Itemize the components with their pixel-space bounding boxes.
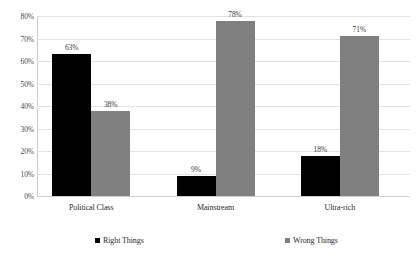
x-axis-category-label: Mainstream xyxy=(197,203,234,212)
bar-value-label: 38% xyxy=(104,100,117,109)
plot-area: 63%38%9%78%18%71% xyxy=(37,16,410,196)
x-axis-category-label: Political Class xyxy=(69,203,114,212)
legend-label: Wrong Things xyxy=(293,236,338,245)
y-axis-tick-label: 30% xyxy=(0,124,34,133)
gridline xyxy=(37,16,410,17)
bar xyxy=(340,36,379,196)
y-axis-tick-labels: 0%10%20%30%40%50%60%70%80% xyxy=(0,16,34,196)
legend-swatch-icon xyxy=(285,238,290,243)
bar xyxy=(216,21,255,197)
y-axis-tick-label: 60% xyxy=(0,57,34,66)
bar-value-label: 71% xyxy=(353,25,366,34)
bar-chart: 0%10%20%30%40%50%60%70%80% 63%38%9%78%18… xyxy=(0,0,420,258)
legend-label: Right Things xyxy=(103,236,144,245)
y-axis-tick-label: 40% xyxy=(0,102,34,111)
legend-entry[interactable]: Wrong Things xyxy=(285,236,338,245)
x-axis-category-label: Ultra-rich xyxy=(325,203,356,212)
y-axis-tick-label: 80% xyxy=(0,12,34,21)
y-axis-tick-label: 0% xyxy=(0,192,34,201)
y-axis-tick-label: 50% xyxy=(0,79,34,88)
bar xyxy=(177,176,216,196)
bar-value-label: 18% xyxy=(314,145,327,154)
bar xyxy=(301,156,340,197)
bar xyxy=(52,54,91,196)
bar-value-label: 63% xyxy=(65,43,78,52)
x-axis-category-labels: Political ClassMainstreamUltra-rich xyxy=(37,203,410,219)
bar-value-label: 78% xyxy=(228,10,241,19)
legend-swatch-icon xyxy=(95,238,100,243)
legend-entry[interactable]: Right Things xyxy=(95,236,144,245)
chart-legend: Right ThingsWrong Things xyxy=(0,236,420,250)
gridline xyxy=(37,196,410,197)
bar xyxy=(91,111,130,197)
y-axis-tick-label: 70% xyxy=(0,34,34,43)
bar-value-label: 9% xyxy=(191,165,201,174)
y-axis-tick-label: 20% xyxy=(0,147,34,156)
y-axis-tick-label: 10% xyxy=(0,169,34,178)
